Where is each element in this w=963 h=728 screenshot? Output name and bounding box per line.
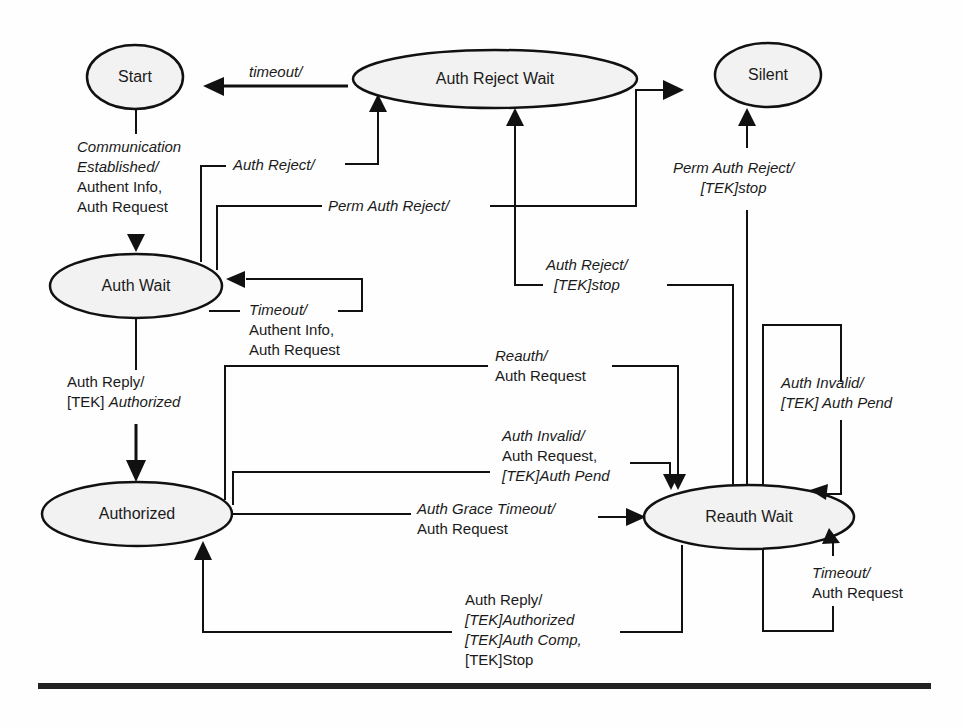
label-line: [TEK]Stop <box>465 650 582 670</box>
arrow-head-icon <box>626 508 646 526</box>
label-auth-grace-timeout: Auth Grace Timeout/ Auth Request <box>417 499 555 539</box>
state-label-authorized: Authorized <box>99 505 176 523</box>
label-line: [TEK] Authorized <box>67 392 180 412</box>
arrow-head-icon <box>506 108 524 126</box>
label-reauth-wait-timeout: Timeout/ Auth Request <box>812 563 903 603</box>
label-reauth-wait-auth-reply: Auth Reply/ [TEK]Authorized [TEK]Auth Co… <box>465 590 582 670</box>
label-line: Auth Request <box>249 340 340 360</box>
label-action: Authorized <box>109 393 181 410</box>
label-line: Auth Reply/ <box>67 372 180 392</box>
label-line: Auth Request, <box>502 446 610 466</box>
label-reauth: Reauth/ Auth Request <box>495 346 586 386</box>
arrow-head-icon <box>738 108 756 126</box>
state-diagram: Start Auth Reject Wait Silent Auth Wait … <box>0 0 963 728</box>
state-label-auth-wait: Auth Wait <box>102 277 171 295</box>
label-line: Auth Invalid/ <box>781 373 892 393</box>
label-reauth-auth-reject: Auth Reject/ [TEK]stop <box>546 255 628 295</box>
label-line: Timeout/ <box>812 563 903 583</box>
label-line: Auth Reject/ <box>546 255 628 275</box>
label-line: Auth Invalid/ <box>502 426 610 446</box>
label-line: Authent Info, <box>249 320 340 340</box>
label-reauth-wait-auth-invalid: Auth Invalid/ [TEK] Auth Pend <box>781 373 892 413</box>
label-line: Auth Request <box>77 197 181 217</box>
label-authorized-auth-invalid: Auth Invalid/ Auth Request, [TEK]Auth Pe… <box>502 426 610 486</box>
label-auth-wait-timeout: Timeout/ Authent Info, Auth Request <box>249 300 340 360</box>
label-reauth-perm-auth-reject: Perm Auth Reject/ [TEK]stop <box>673 158 794 198</box>
label-line: Authent Info, <box>77 177 181 197</box>
state-label-silent: Silent <box>748 66 788 84</box>
label-line: Perm Auth Reject/ <box>673 158 794 178</box>
label-line: [TEK]Auth Comp, <box>465 630 582 650</box>
label-line: Communication <box>77 137 181 157</box>
label-auth-reply-authorized: Auth Reply/ [TEK] Authorized <box>67 372 180 412</box>
label-line: [TEK]stop <box>673 178 794 198</box>
arrow-head-icon <box>203 77 224 96</box>
label-line: Auth Request <box>812 583 903 603</box>
label-prefix: [TEK] <box>67 393 105 410</box>
label-timeout-to-start: timeout/ <box>249 62 302 82</box>
state-label-reauth-wait: Reauth Wait <box>705 508 792 526</box>
state-label-auth-reject-wait: Auth Reject Wait <box>436 70 555 88</box>
arrow-head-icon <box>226 271 245 288</box>
label-line: Auth Grace Timeout/ <box>417 499 555 519</box>
arrow-head-icon <box>194 541 212 560</box>
horizontal-rule <box>38 683 931 689</box>
label-line: Auth Request <box>417 519 555 539</box>
label-line: Established/ <box>77 157 181 177</box>
label-auth-reject: Auth Reject/ <box>233 155 315 175</box>
label-line: [TEK] Auth Pend <box>781 393 892 413</box>
label-start-to-auth-wait: Communication Established/ Authent Info,… <box>77 137 181 217</box>
label-line: Auth Reply/ <box>465 590 582 610</box>
label-line: Reauth/ <box>495 346 586 366</box>
label-line: Timeout/ <box>249 300 340 320</box>
label-line: [TEK]stop <box>546 275 628 295</box>
state-label-start: Start <box>118 68 152 86</box>
arrow-head-icon <box>663 80 684 100</box>
label-line: Auth Request <box>495 366 586 386</box>
arrow-head-icon <box>127 234 145 252</box>
label-line: [TEK]Auth Pend <box>502 466 610 486</box>
label-perm-auth-reject: Perm Auth Reject/ <box>328 196 449 216</box>
arrow-head-icon <box>126 460 146 482</box>
label-line: [TEK]Authorized <box>465 610 582 630</box>
